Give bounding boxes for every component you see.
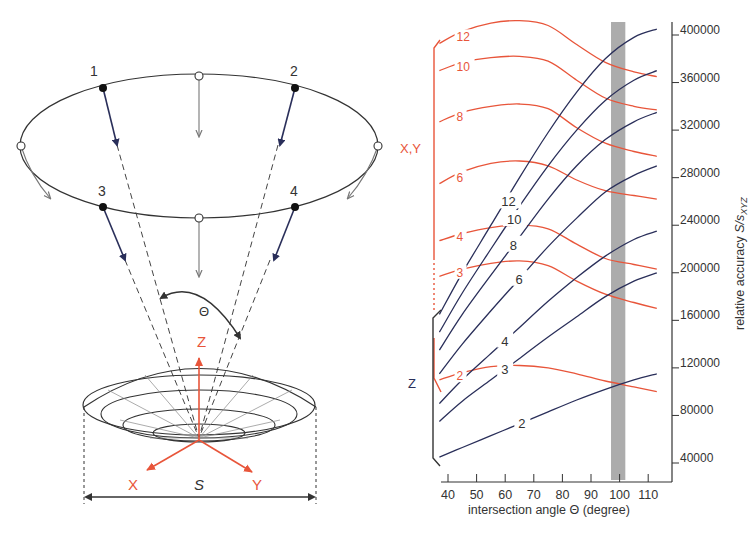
y-tick-label: 240000 [680,213,720,227]
y-tick-label: 320000 [680,118,720,132]
z-curve-label-3: 3 [501,362,508,377]
xy-curve-label-6: 6 [457,171,464,185]
x-tick-label: 40 [441,488,455,502]
xy-curve-label-12: 12 [457,30,471,44]
xy-curve-label-8: 8 [457,110,464,124]
y-tick-label: 200000 [680,261,720,275]
x-tick-label: 60 [498,488,512,502]
y-axis-ticks: 4000080000120000160000200000240000280000… [672,23,720,465]
z-group-bracket [433,310,441,466]
y-tick-label: 80000 [680,403,714,417]
y-tick-label: 400000 [680,23,720,37]
x-tick-label: 80 [555,488,569,502]
xy-group-label: X,Y [400,141,421,156]
y-axis-title-var: S/s [733,215,747,233]
camera-label-4: 4 [290,183,298,199]
x-tick-label: 110 [638,488,658,502]
z-curve-label-12: 12 [501,194,515,209]
x-axis-ticks: 405060708090100110 [441,474,658,502]
span-label: S [194,476,204,493]
y-tick-label: 280000 [680,166,720,180]
xy-curve-label-10: 10 [457,60,471,74]
y-tick-label: 40000 [680,451,714,465]
y-axis-title-sub: XYZ [739,197,749,216]
z-group-label: Z [408,376,416,391]
y-tick-label: 160000 [680,308,720,322]
z-curve-label-6: 6 [516,272,523,287]
y-axis-title: relative accuracy S/sXYZ [733,197,749,330]
xy-curve-label-3: 3 [457,266,464,280]
z-curve-label-2: 2 [518,416,525,431]
x-tick-label: 100 [609,488,630,502]
grey-direction-arrows [21,76,378,276]
camera-label-2: 2 [290,63,298,79]
y-axis-title-main: relative accuracy [733,233,747,330]
z-curve-label-10: 10 [507,212,521,227]
curve-labels: 234681012234681012 [455,29,531,430]
figure: 1 2 3 4 Θ [0,0,755,533]
axis-label-x: X [128,476,138,493]
z-curve-label-4: 4 [501,334,508,349]
accuracy-chart: 234681012234681012 405060708090100110 40… [400,21,749,517]
x-axis-title: intersection angle Θ (degree) [468,503,630,517]
axis-label-y: Y [252,476,262,493]
camera-label-3: 3 [98,183,106,199]
xy-group-bracket [434,40,441,392]
x-tick-label: 70 [527,488,541,502]
camera-label-1: 1 [90,63,98,79]
y-tick-label: 360000 [680,71,720,85]
axis-label-z: Z [197,333,206,350]
x-tick-label: 90 [584,488,598,502]
y-tick-label: 120000 [680,356,720,370]
z-curve-label-8: 8 [510,238,517,253]
xy-curve-label-4: 4 [457,230,464,244]
coordinate-axes [147,358,252,472]
angle-label: Θ [199,304,209,319]
x-tick-label: 50 [470,488,484,502]
camera-geometry-diagram: 1 2 3 4 Θ [17,63,382,504]
xy-curve-label-2: 2 [457,369,464,383]
